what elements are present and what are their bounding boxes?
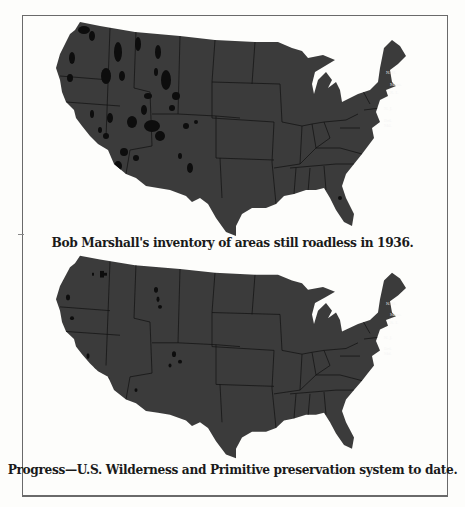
map-roadless-areas-1936: N. H.Mass.R. I. N. J.Del.Md. bbox=[40, 18, 412, 240]
map-wilderness-system: N. H.Mass.R. I. N. J.Del.Md. bbox=[40, 252, 412, 462]
caption-roadless-1936: Bob Marshall's inventory of areas still … bbox=[0, 236, 465, 250]
svg-text:Md.: Md. bbox=[384, 123, 392, 128]
svg-text:Md.: Md. bbox=[384, 351, 392, 356]
svg-text:Mass.: Mass. bbox=[390, 312, 402, 317]
svg-text:N. J.: N. J. bbox=[384, 335, 392, 340]
us-landmass bbox=[56, 22, 406, 236]
svg-text:N. H.: N. H. bbox=[386, 301, 396, 306]
svg-text:N. J.: N. J. bbox=[384, 106, 392, 111]
us-landmass bbox=[56, 256, 406, 458]
caption-wilderness-system: Progress—U.S. Wilderness and Primitive p… bbox=[0, 463, 465, 477]
scan-mark bbox=[18, 234, 24, 235]
svg-text:N. H.: N. H. bbox=[386, 70, 397, 75]
svg-text:Mass.: Mass. bbox=[390, 82, 402, 87]
svg-text:R. I.: R. I. bbox=[390, 90, 398, 95]
svg-text:R. I.: R. I. bbox=[390, 320, 398, 325]
